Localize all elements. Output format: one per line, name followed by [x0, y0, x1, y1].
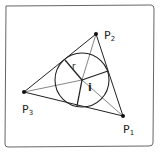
label-p1: P1 [123, 123, 134, 137]
point-p1 [121, 114, 125, 118]
point-p2 [94, 32, 98, 36]
label-p2: P2 [104, 29, 115, 43]
bisector-p3 [24, 80, 82, 92]
radius-bottom [77, 80, 82, 106]
label-p3: P3 [22, 103, 33, 117]
label-r: r [72, 61, 76, 71]
radius-right [82, 71, 108, 80]
bisector-p2 [82, 34, 96, 80]
label-incenter: i [88, 81, 92, 94]
point-p3 [22, 90, 26, 94]
incircle-diagram: P2 P3 P1 r i [0, 0, 160, 154]
frame [5, 5, 154, 147]
